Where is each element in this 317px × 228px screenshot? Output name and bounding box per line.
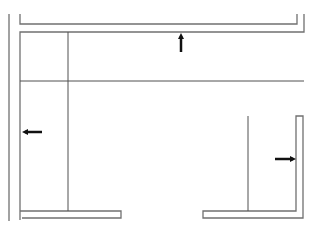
dividers-group: [20, 32, 304, 211]
arrows-group: [25, 36, 293, 159]
walls-group: [9, 14, 304, 221]
bottom-left-wall: [20, 211, 121, 218]
floor-plan-diagram: [0, 0, 317, 228]
top-inner-wall: [20, 14, 304, 220]
floor-plan-svg: [0, 0, 317, 228]
bottom-right-wall: [203, 116, 303, 218]
inner-left-wall: [20, 14, 297, 24]
